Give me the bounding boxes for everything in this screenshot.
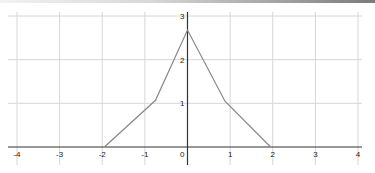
x-tick-label: -4 [13, 150, 21, 159]
x-tick-label: -2 [99, 150, 107, 159]
x-tick-label: 3 [313, 150, 318, 159]
y-tick-labels: 123 [180, 12, 185, 108]
line-chart: -4-3-2-112340 123 [0, 0, 375, 173]
x-tick-label: 2 [271, 150, 276, 159]
x-tick-label: 1 [228, 150, 233, 159]
y-tick-label: 2 [180, 56, 185, 65]
y-tick-label: 1 [180, 99, 185, 108]
y-tick-label: 3 [180, 12, 185, 21]
x-tick-label: 4 [356, 150, 361, 159]
x-tick-label: -3 [56, 150, 64, 159]
x-tick-label: -1 [141, 150, 149, 159]
origin-label: 0 [180, 150, 185, 159]
